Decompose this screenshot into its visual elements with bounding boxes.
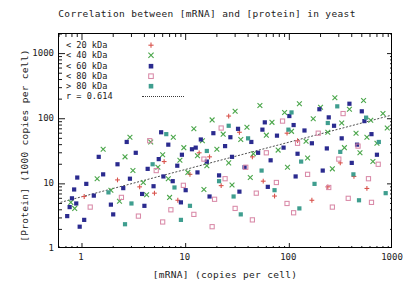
data-point xyxy=(350,161,354,165)
data-point xyxy=(272,188,276,192)
data-point xyxy=(136,214,140,218)
data-point xyxy=(72,206,77,211)
data-point xyxy=(239,212,243,216)
data-point xyxy=(246,136,250,140)
data-point xyxy=(259,168,263,172)
data-point xyxy=(228,135,232,139)
data-point xyxy=(164,132,168,136)
y-tick-label: 1000 xyxy=(32,48,54,58)
y-tick-label: 1 xyxy=(49,243,54,253)
data-point xyxy=(282,110,287,115)
data-point xyxy=(256,151,260,155)
data-point xyxy=(289,110,293,114)
data-point xyxy=(227,124,231,128)
data-point xyxy=(167,195,172,200)
data-point xyxy=(195,170,199,174)
data-point xyxy=(251,151,256,156)
data-point xyxy=(377,140,381,144)
data-point xyxy=(82,218,86,222)
data-point xyxy=(263,120,267,124)
data-point xyxy=(266,185,270,189)
data-point xyxy=(214,147,219,152)
data-point xyxy=(109,203,113,207)
data-point xyxy=(335,104,339,108)
data-point xyxy=(312,182,316,186)
data-point xyxy=(310,141,314,145)
data-point xyxy=(129,201,133,205)
data-point xyxy=(230,155,234,159)
data-point xyxy=(249,140,253,144)
data-point xyxy=(232,194,236,198)
data-point xyxy=(128,177,132,181)
x-tick-label: 100 xyxy=(280,252,296,262)
x-tick-label: 10 xyxy=(179,252,190,262)
data-point xyxy=(295,152,299,156)
chart-canvas: Correlation between [mRNA] and [protein]… xyxy=(0,0,414,293)
data-point xyxy=(149,74,154,79)
data-point xyxy=(376,162,380,166)
data-point xyxy=(221,132,226,137)
data-point xyxy=(276,148,281,153)
data-point xyxy=(269,158,273,162)
data-point xyxy=(171,135,176,140)
data-point xyxy=(297,101,302,106)
data-point xyxy=(217,179,221,183)
data-point xyxy=(364,116,368,120)
data-point xyxy=(292,211,296,215)
data-point xyxy=(125,140,129,144)
data-point xyxy=(302,128,306,132)
data-point xyxy=(368,118,373,123)
data-point xyxy=(257,103,262,108)
data-point xyxy=(95,176,100,181)
legend-marker-icon xyxy=(144,61,158,71)
data-point xyxy=(72,187,76,191)
data-point xyxy=(233,206,237,210)
data-point xyxy=(115,162,119,166)
data-point xyxy=(101,147,106,152)
data-point xyxy=(339,121,344,126)
data-point xyxy=(338,150,342,154)
data-point xyxy=(369,132,373,136)
data-point xyxy=(166,143,170,147)
data-point xyxy=(236,127,240,131)
scatter-points-layer xyxy=(59,34,391,247)
data-point xyxy=(161,174,165,178)
data-point xyxy=(151,162,155,166)
data-point xyxy=(384,191,388,195)
data-point xyxy=(248,175,253,180)
data-point xyxy=(207,154,212,159)
data-point xyxy=(152,191,157,196)
data-point xyxy=(123,222,127,226)
data-point xyxy=(219,126,223,130)
data-point xyxy=(369,200,373,204)
data-point xyxy=(309,198,314,203)
data-point xyxy=(332,124,336,128)
data-point xyxy=(140,192,144,196)
legend-trendline-swatch xyxy=(142,96,184,97)
data-point xyxy=(78,225,82,229)
plot-frame: < 20 kDa< 40 kDa< 60 kDa< 80 kDa> 80 kDa… xyxy=(58,33,392,248)
data-point xyxy=(327,115,331,119)
data-point xyxy=(340,136,344,140)
data-point xyxy=(299,159,303,163)
data-point xyxy=(151,184,155,188)
chart-title: Correlation between [mRNA] and [protein]… xyxy=(0,8,414,19)
data-point xyxy=(175,164,179,168)
data-point xyxy=(144,192,149,197)
data-point xyxy=(207,194,211,198)
data-point xyxy=(157,157,161,161)
data-point xyxy=(341,111,345,115)
data-point xyxy=(212,197,216,201)
data-point xyxy=(287,114,291,118)
axis-ticks xyxy=(59,34,391,247)
data-point xyxy=(305,156,310,161)
data-point xyxy=(305,172,309,176)
data-point xyxy=(381,111,386,116)
data-point xyxy=(210,117,215,122)
data-point xyxy=(65,214,69,218)
data-point xyxy=(226,160,231,165)
data-point xyxy=(68,200,73,205)
data-point xyxy=(148,53,153,58)
data-point xyxy=(184,188,188,192)
data-point xyxy=(180,153,184,157)
